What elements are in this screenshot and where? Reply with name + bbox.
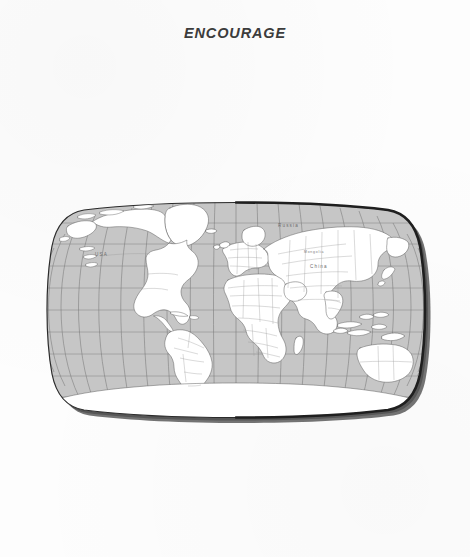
map-label-russia: Russia (278, 223, 299, 228)
page-canvas: ENCOURAGE (0, 0, 470, 557)
map-label-usa: USA (95, 252, 108, 257)
page-title: ENCOURAGE (184, 24, 286, 42)
page-title-container: ENCOURAGE (0, 24, 470, 42)
world-map-svg: USA Russia Mongolia China (38, 196, 434, 436)
map-label-mongolia: Mongolia (304, 250, 324, 254)
map-label-china: China (310, 264, 328, 269)
world-map-figure: USA Russia Mongolia China (38, 196, 434, 436)
